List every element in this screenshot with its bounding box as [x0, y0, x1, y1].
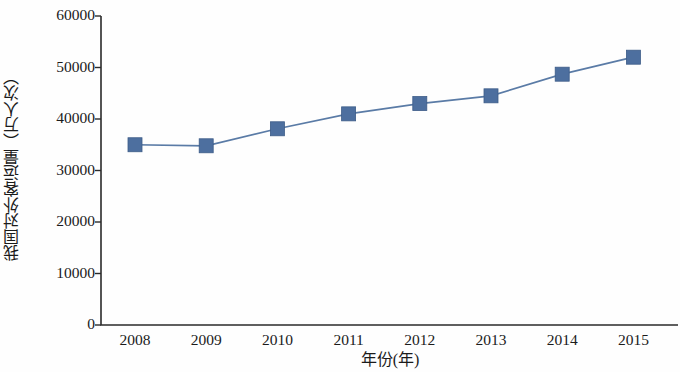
data-point-marker — [128, 138, 142, 152]
data-point-marker — [484, 89, 498, 103]
axis-lines — [101, 16, 678, 325]
chart-figure: 我国对外客运量（万人次） 010000200003000040000500006… — [0, 0, 680, 372]
data-point-marker — [199, 139, 213, 153]
data-point-marker — [342, 107, 356, 121]
data-point-marker — [413, 97, 427, 111]
axes — [95, 16, 678, 325]
data-point-marker — [626, 50, 640, 64]
plot-area — [0, 0, 680, 372]
data-series — [128, 50, 640, 153]
data-point-marker — [555, 67, 569, 81]
data-point-marker — [270, 122, 284, 136]
